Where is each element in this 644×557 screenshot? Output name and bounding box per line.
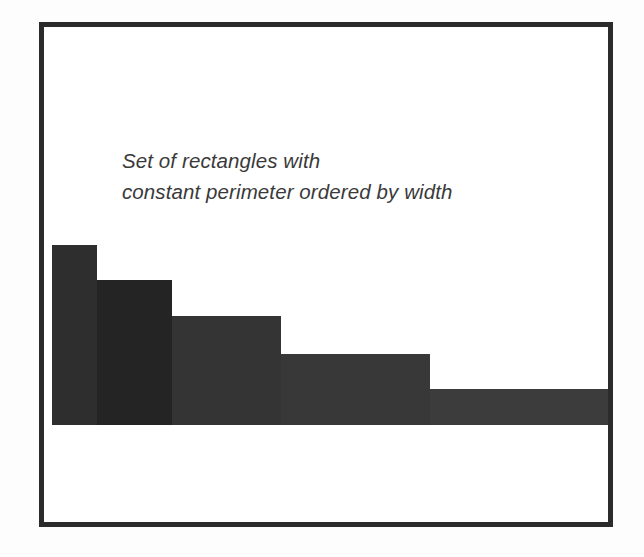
- figure-frame-border: Set of rectangles with constant perimete…: [39, 22, 613, 527]
- figure-canvas: Set of rectangles with constant perimete…: [0, 0, 644, 557]
- bar-rectangle-1: [52, 245, 97, 425]
- plot-area: Set of rectangles with constant perimete…: [44, 27, 608, 522]
- bar-rectangle-2: [97, 280, 172, 425]
- caption-line-2: constant perimeter ordered by width: [122, 176, 453, 207]
- chart-caption: Set of rectangles with constant perimete…: [122, 145, 453, 207]
- bar-rectangle-4: [281, 354, 430, 425]
- bar-rectangle-5: [430, 389, 608, 425]
- bar-rectangle-3: [172, 316, 281, 425]
- caption-line-1: Set of rectangles with: [122, 145, 453, 176]
